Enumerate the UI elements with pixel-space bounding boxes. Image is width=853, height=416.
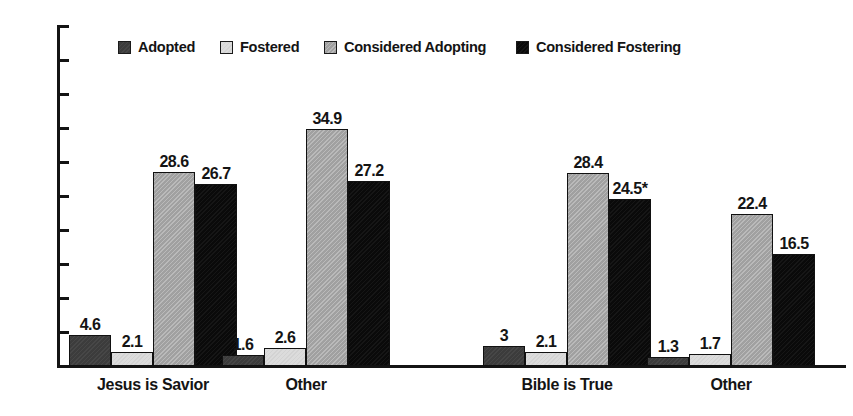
bar-value-label: 1.6 [233, 336, 254, 354]
bar-group: 4.62.128.626.7 [69, 26, 237, 366]
bar-value-label: 28.6 [159, 153, 188, 171]
bar[interactable]: 3 [483, 346, 525, 366]
bar[interactable]: 1.7 [689, 354, 731, 366]
x-axis-category-label: Jesus is Savior [97, 376, 209, 394]
bar-value-label: 16.5 [779, 235, 808, 253]
bar-value-label: 24.5* [613, 180, 648, 198]
bar-group: 1.62.634.927.2 [222, 26, 390, 366]
x-axis-category-label: Other [710, 376, 751, 394]
bar-group: 1.31.722.416.5 [647, 26, 815, 366]
bar-value-label: 27.2 [354, 162, 383, 180]
bar-value-label: 2.1 [122, 333, 143, 351]
bar[interactable]: 27.2 [348, 181, 390, 366]
bar[interactable]: 28.6 [153, 172, 195, 366]
bar-value-label: 1.3 [658, 338, 679, 356]
plot-area: 4.62.128.626.71.62.634.927.232.128.424.5… [57, 26, 846, 366]
bar-value-label: 28.4 [573, 154, 602, 172]
bar[interactable]: 2.1 [525, 352, 567, 366]
bar-value-label: 4.6 [80, 316, 101, 334]
bar-value-label: 22.4 [737, 195, 766, 213]
bar-value-label: 34.9 [312, 110, 341, 128]
bar-value-label: 2.6 [275, 329, 296, 347]
bar[interactable]: 16.5 [773, 254, 815, 366]
bar-chart: Adopted Fostered Considered Adopting Con… [0, 0, 853, 416]
bar-group: 32.128.424.5* [483, 26, 651, 366]
x-axis-category-label: Other [285, 376, 326, 394]
bar[interactable]: 34.9 [306, 129, 348, 366]
bar[interactable]: 1.6 [222, 355, 264, 366]
bar-value-label: 3 [500, 327, 508, 345]
bar[interactable]: 4.6 [69, 335, 111, 366]
bar[interactable]: 24.5* [609, 199, 651, 366]
bar-value-label: 1.7 [700, 335, 721, 353]
bar[interactable]: 2.6 [264, 348, 306, 366]
bar-value-label: 2.1 [536, 333, 557, 351]
x-axis-category-label: Bible is True [521, 376, 612, 394]
bar[interactable]: 28.4 [567, 173, 609, 366]
bar[interactable]: 22.4 [731, 214, 773, 366]
bar[interactable]: 2.1 [111, 352, 153, 366]
bar[interactable]: 1.3 [647, 357, 689, 366]
